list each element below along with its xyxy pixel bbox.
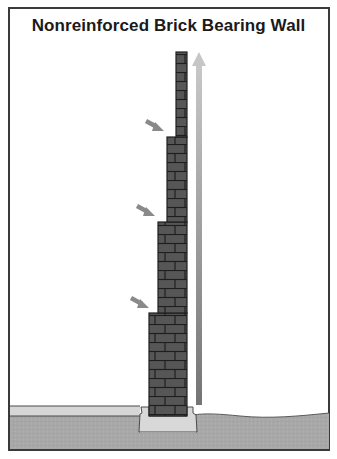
wall-tier-bottom [149, 313, 187, 416]
load-arrow-middle-icon [137, 206, 155, 216]
wall-tier-top [176, 52, 187, 137]
wall-tier-third [158, 222, 187, 313]
load-arrow-lower-icon [131, 298, 149, 308]
wall-tier-second [167, 137, 187, 222]
brick-wall [149, 52, 187, 416]
wall-diagram [0, 0, 337, 459]
floor-slab [10, 406, 140, 416]
vertical-load-arrow-icon [192, 52, 206, 405]
load-arrow-upper-icon [146, 121, 164, 131]
